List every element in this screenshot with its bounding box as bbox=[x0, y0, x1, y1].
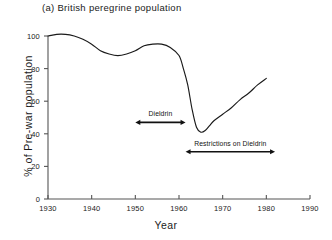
population-curve bbox=[48, 34, 266, 132]
chart-figure: (a) British peregrine population 0204060… bbox=[0, 0, 332, 240]
annotation-arrow-head-left bbox=[186, 149, 191, 154]
x-tick-label: 1960 bbox=[170, 204, 188, 213]
y-axis-title: % of Pre-war population bbox=[22, 26, 34, 206]
x-tick-label: 1950 bbox=[127, 204, 145, 213]
annotation-label: Dieldrin bbox=[149, 110, 173, 117]
annotation-arrow-head-right bbox=[181, 120, 186, 125]
y-tick-marks bbox=[44, 36, 48, 199]
annotation-label: Restrictions on Dieldrin bbox=[194, 140, 266, 147]
x-tick-marks bbox=[48, 195, 310, 199]
x-tick-label: 1930 bbox=[39, 204, 57, 213]
x-tick-label: 1990 bbox=[301, 204, 319, 213]
x-tick-label: 1980 bbox=[258, 204, 276, 213]
x-tick-label: 1940 bbox=[83, 204, 101, 213]
x-axis-title: Year bbox=[0, 219, 332, 231]
x-tick-label: 1970 bbox=[214, 204, 232, 213]
axes bbox=[48, 36, 310, 199]
annotation-arrow-head-left bbox=[135, 120, 140, 125]
annotation-arrows bbox=[135, 120, 275, 155]
annotation-arrow-head-right bbox=[270, 149, 275, 154]
data-series-line bbox=[48, 34, 266, 132]
